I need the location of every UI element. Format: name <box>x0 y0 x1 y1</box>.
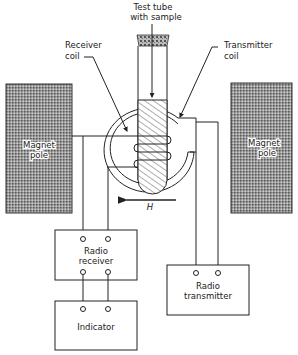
receiver-input-terminal-1 <box>81 237 86 242</box>
transmitter-coil-label-2: coil <box>224 51 239 61</box>
indicator-box: Indicator <box>55 301 137 350</box>
transmitter-coil-label-1: Transmitter <box>223 40 273 50</box>
receiver-input-terminal-2 <box>106 237 111 242</box>
svg-text:Magnet: Magnet <box>248 138 281 148</box>
receiver-output-terminal-2 <box>106 270 111 275</box>
indicator-terminal-1 <box>81 307 86 312</box>
test-tube-label-1: Test tube <box>133 2 173 12</box>
transmitter-leader-line <box>180 47 212 117</box>
transmitter-terminal-2 <box>216 271 221 276</box>
receiver-label-1: Radio <box>84 246 108 256</box>
receiver-output-terminal-1 <box>81 270 86 275</box>
transmitter-terminal-1 <box>194 271 199 276</box>
magnet-pole-right: Magnet Magnet pole pole <box>231 83 292 213</box>
receiver-coil-label-2: coil <box>65 51 80 61</box>
indicator-terminal-2 <box>106 307 111 312</box>
field-label: H <box>147 202 154 212</box>
radio-transmitter-box: Radio transmitter <box>167 265 249 315</box>
receiver-label-2: receiver <box>79 256 114 266</box>
svg-text:pole: pole <box>258 148 276 158</box>
nmr-apparatus-diagram: Magnet Magnet pole pole Magnet Magnet po… <box>0 0 298 355</box>
radio-receiver-box: Radio receiver <box>55 230 137 280</box>
test-tube-label-2: with sample <box>130 12 182 22</box>
magnetic-field-arrow: H <box>127 200 176 212</box>
transmitter-label-2: transmitter <box>184 291 232 301</box>
indicator-label: Indicator <box>77 322 115 332</box>
transmitter-wires <box>190 122 218 270</box>
receiver-leader-line <box>93 57 127 131</box>
receiver-coil-label-1: Receiver <box>65 40 102 50</box>
svg-text:Magnet: Magnet <box>23 140 56 150</box>
svg-text:pole: pole <box>30 150 48 160</box>
transmitter-label-1: Radio <box>196 281 220 291</box>
test-tube <box>137 24 169 194</box>
magnet-pole-left: Magnet Magnet pole pole <box>6 84 72 213</box>
